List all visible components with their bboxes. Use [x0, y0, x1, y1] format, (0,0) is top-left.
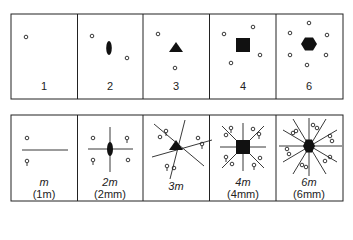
- bottom-label-m: m: [11, 176, 77, 188]
- bottom-sublabel-2mm: (2mm): [77, 188, 143, 200]
- bottom-sublabel-1m: (1m): [11, 188, 77, 200]
- bottom-label-3m: 3m: [143, 180, 209, 192]
- top-label-3: 3: [143, 80, 209, 92]
- hexagon-shape: [301, 38, 317, 51]
- bottom-sublabel-6mm: (6mm): [276, 188, 342, 200]
- bottom-label-2m: 2m: [77, 176, 143, 188]
- ellipse-shape: [106, 41, 112, 55]
- bottom-sublabel-4mm: (4mm): [210, 188, 276, 200]
- top-label-2: 2: [77, 80, 143, 92]
- triangle-shape: [169, 42, 183, 52]
- top-label-4: 4: [210, 80, 276, 92]
- top-label-6: 6: [276, 80, 342, 92]
- bottom-label-6m: 6m: [276, 176, 342, 188]
- square-shape: [236, 38, 250, 52]
- bottom-label-4m: 4m: [210, 176, 276, 188]
- top-label-1: 1: [11, 80, 77, 92]
